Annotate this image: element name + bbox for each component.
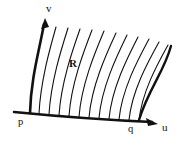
v-axis-label: v: [46, 3, 52, 14]
point-label-q: q: [128, 124, 133, 135]
right-boundary-path: [139, 46, 171, 120]
interior-curve-family: [39, 27, 168, 120]
diagram-svg: [0, 0, 180, 152]
left-boundary-path: [30, 24, 44, 113]
u-axis-label: u: [162, 122, 168, 133]
region-label-R: R: [69, 58, 77, 69]
interior-curve: [79, 31, 104, 117]
u-axis-curve: [14, 112, 158, 126]
u-axis-arrowhead: [146, 118, 158, 126]
interior-curve: [89, 33, 116, 117]
interior-curve: [99, 35, 127, 118]
point-label-p: p: [18, 117, 23, 128]
figure-canvas: v u R p q: [0, 0, 180, 152]
interior-curve: [109, 37, 138, 119]
baseline-path: [14, 112, 152, 122]
v-axis-arrowhead: [41, 18, 49, 29]
